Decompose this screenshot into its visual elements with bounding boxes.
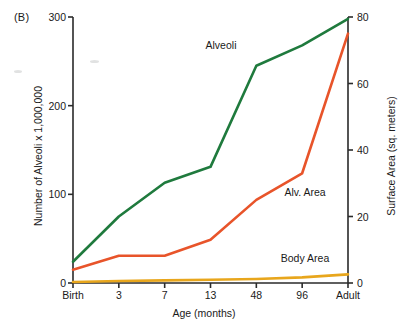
y-tick-label-right: 0 [357, 277, 363, 289]
series-label-body-area: Body Area [281, 252, 329, 264]
y-tick-label-right: 40 [357, 144, 369, 156]
figure-panel-b: (B) Number of Alveoli x 1,000,000 Surfac… [0, 0, 408, 326]
y-tick-label-left: 0 [28, 277, 66, 289]
x-tick-label: 48 [250, 289, 262, 301]
x-tick-label: Adult [336, 289, 360, 301]
y-tick-label-left: 300 [28, 11, 66, 23]
y-tick-label-left: 200 [28, 100, 66, 112]
x-tick-label: 13 [205, 289, 217, 301]
x-tick-label: 7 [162, 289, 168, 301]
y-tick-label-right: 80 [357, 11, 369, 23]
x-tick-label: 3 [116, 289, 122, 301]
x-tick-label: 96 [296, 289, 308, 301]
x-tick-label: Birth [62, 289, 84, 301]
y-tick-label-right: 20 [357, 211, 369, 223]
y-tick-label-right: 60 [357, 78, 369, 90]
series-label-alv-area: Alv. Area [284, 186, 325, 198]
series-label-alveoli: Alveoli [206, 39, 237, 51]
y-tick-label-left: 100 [28, 188, 66, 200]
